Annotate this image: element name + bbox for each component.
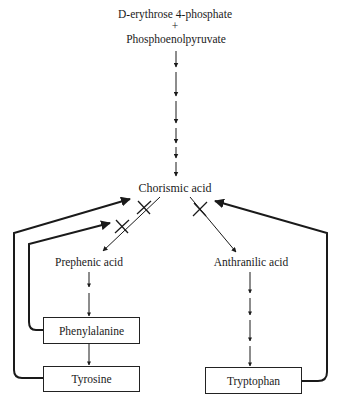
- inhibition-mark-right: [193, 202, 207, 216]
- tyrosine-box: Tyrosine: [43, 366, 140, 392]
- tryptophan-box: Tryptophan: [205, 367, 302, 394]
- prephenic-acid-label: Prephenic acid: [55, 256, 123, 268]
- chorismic-acid-label: Chorismic acid: [139, 181, 212, 196]
- anthranilic-acid-label: Anthranilic acid: [214, 256, 288, 268]
- feedback-tryptophan: [215, 201, 327, 381]
- feedback-phenylalanine: [29, 223, 110, 330]
- precursor-pep-label: Phosphoenolpyruvate: [126, 33, 226, 45]
- phenylalanine-box: Phenylalanine: [43, 317, 140, 344]
- feedback-tyrosine: [14, 199, 130, 378]
- precursor-erythrose-label: D-erythrose 4-phosphate: [118, 8, 232, 20]
- inhibition-mark-left-2: [115, 220, 129, 233]
- plus-sign: +: [172, 20, 179, 32]
